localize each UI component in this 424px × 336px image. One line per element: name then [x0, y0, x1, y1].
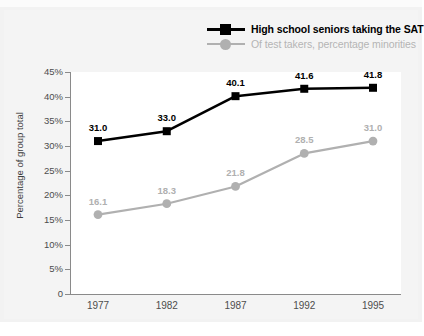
- data-point-label: 16.1: [76, 196, 120, 207]
- data-point-square: [369, 84, 377, 92]
- data-point-square: [94, 137, 102, 145]
- data-point-label: 33.0: [145, 112, 189, 123]
- data-point-circle: [369, 137, 378, 146]
- data-point-label: 31.0: [351, 122, 395, 133]
- data-point-square: [163, 127, 171, 135]
- data-point-square: [300, 85, 308, 93]
- data-point-label: 41.6: [282, 70, 326, 81]
- data-point-label: 40.1: [214, 77, 258, 88]
- data-point-label: 41.8: [351, 69, 395, 80]
- data-point-square: [232, 92, 240, 100]
- data-point-label: 28.5: [282, 134, 326, 145]
- data-point-label: 18.3: [145, 185, 189, 196]
- data-point-circle: [94, 210, 103, 219]
- data-point-circle: [300, 149, 309, 158]
- data-point-label: 31.0: [76, 122, 120, 133]
- data-point-circle: [231, 182, 240, 191]
- data-point-circle: [162, 199, 171, 208]
- data-point-label: 21.8: [214, 167, 258, 178]
